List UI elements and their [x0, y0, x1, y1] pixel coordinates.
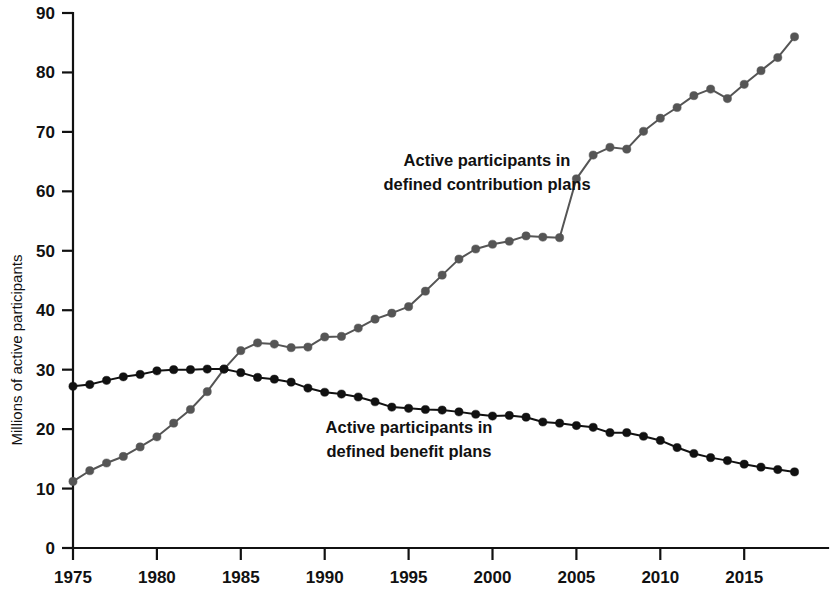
- data-point: [102, 376, 110, 384]
- y-tick-label-70: 70: [36, 123, 55, 142]
- data-point: [186, 405, 194, 413]
- data-point: [690, 92, 698, 100]
- data-point: [354, 324, 362, 332]
- x-tick-label-1995: 1995: [390, 568, 428, 587]
- x-tick-label-2000: 2000: [474, 568, 512, 587]
- data-point: [69, 382, 77, 390]
- data-point: [136, 443, 144, 451]
- data-point: [153, 433, 161, 441]
- data-point: [170, 419, 178, 427]
- data-point: [136, 370, 144, 378]
- data-point: [539, 418, 547, 426]
- data-point: [421, 405, 429, 413]
- y-tick-label-0: 0: [46, 539, 55, 558]
- data-point: [723, 457, 731, 465]
- data-point: [388, 309, 396, 317]
- series-line: [73, 37, 795, 482]
- defined-benefit-annotation-line-2: defined benefit plans: [326, 442, 491, 460]
- x-axis-ticks: [73, 548, 744, 560]
- data-point: [522, 232, 530, 240]
- x-tick-label-1990: 1990: [306, 568, 344, 587]
- data-point: [589, 151, 597, 159]
- data-point: [69, 477, 77, 485]
- data-point: [623, 429, 631, 437]
- data-point: [556, 419, 564, 427]
- data-point: [656, 436, 664, 444]
- y-axis-tick-labels: 0102030405060708090: [36, 4, 55, 558]
- y-tick-label-30: 30: [36, 361, 55, 380]
- data-point: [572, 421, 580, 429]
- y-tick-label-50: 50: [36, 242, 55, 261]
- data-point: [119, 452, 127, 460]
- data-point: [774, 53, 782, 61]
- data-point: [656, 114, 664, 122]
- data-point: [421, 287, 429, 295]
- data-point: [203, 388, 211, 396]
- data-point: [673, 103, 681, 111]
- data-point: [388, 403, 396, 411]
- data-point: [321, 388, 329, 396]
- data-point: [371, 315, 379, 323]
- data-point: [237, 347, 245, 355]
- data-point: [757, 67, 765, 75]
- axes: [73, 13, 828, 548]
- data-point: [371, 398, 379, 406]
- data-point: [790, 33, 798, 41]
- y-tick-label-10: 10: [36, 480, 55, 499]
- data-point: [270, 340, 278, 348]
- data-point: [455, 255, 463, 263]
- data-point: [203, 365, 211, 373]
- data-point: [606, 143, 614, 151]
- data-point: [170, 366, 178, 374]
- data-point: [304, 384, 312, 392]
- data-point: [472, 245, 480, 253]
- data-point: [321, 333, 329, 341]
- data-point: [505, 411, 513, 419]
- data-point: [86, 467, 94, 475]
- data-point: [690, 449, 698, 457]
- data-point: [488, 240, 496, 248]
- data-point: [153, 367, 161, 375]
- data-point: [639, 127, 647, 135]
- data-point: [740, 460, 748, 468]
- chart-container: Millions of active participants 01020304…: [0, 0, 831, 589]
- defined-benefit-annotation: Active participants indefined benefit pl…: [326, 418, 493, 460]
- data-point: [606, 429, 614, 437]
- data-point: [539, 233, 547, 241]
- defined-contribution-annotation-line-1: Active participants in: [404, 151, 571, 169]
- data-point: [287, 378, 295, 386]
- data-point: [707, 454, 715, 462]
- data-point: [354, 393, 362, 401]
- x-tick-label-2010: 2010: [641, 568, 679, 587]
- data-point: [337, 390, 345, 398]
- data-point: [673, 443, 681, 451]
- data-point: [556, 234, 564, 242]
- data-point: [119, 373, 127, 381]
- data-point: [287, 344, 295, 352]
- data-point: [790, 468, 798, 476]
- data-point: [270, 375, 278, 383]
- y-axis-title: Millions of active participants: [8, 255, 25, 446]
- data-point: [707, 85, 715, 93]
- data-point: [253, 339, 261, 347]
- data-point: [522, 413, 530, 421]
- data-point: [220, 365, 228, 373]
- defined-contribution-annotation-line-2: defined contribution plans: [383, 175, 590, 193]
- y-tick-label-60: 60: [36, 182, 55, 201]
- data-point: [723, 95, 731, 103]
- data-point: [438, 406, 446, 414]
- data-point: [438, 271, 446, 279]
- y-tick-label-20: 20: [36, 420, 55, 439]
- data-point: [589, 423, 597, 431]
- data-point: [623, 145, 631, 153]
- y-tick-label-90: 90: [36, 4, 55, 23]
- y-axis-ticks: [62, 13, 73, 548]
- line-chart: Millions of active participants 01020304…: [0, 0, 831, 589]
- data-point: [505, 237, 513, 245]
- data-point: [757, 463, 765, 471]
- data-point: [405, 303, 413, 311]
- data-point: [405, 404, 413, 412]
- data-point: [253, 373, 261, 381]
- data-point: [774, 465, 782, 473]
- x-tick-label-2015: 2015: [725, 568, 763, 587]
